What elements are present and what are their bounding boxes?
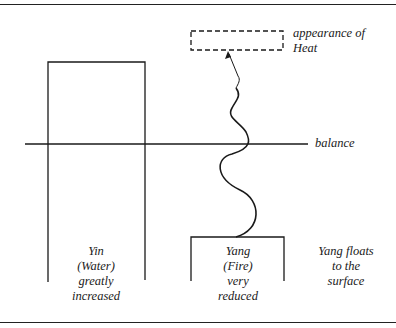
yin-label-line: increased bbox=[60, 289, 132, 304]
yang-label: Yang (Fire) very reduced bbox=[202, 244, 274, 304]
yin-label-line: greatly bbox=[60, 274, 132, 289]
yang-label-line: reduced bbox=[202, 289, 274, 304]
yang-floats-line: surface bbox=[306, 274, 386, 289]
yang-label-line: very bbox=[202, 274, 274, 289]
yang-floats-line: to the bbox=[306, 259, 386, 274]
yang-label-line: Yang bbox=[202, 244, 274, 259]
yin-label-line: (Water) bbox=[60, 259, 132, 274]
yin-label-line: Yin bbox=[60, 244, 132, 259]
balance-label: balance bbox=[315, 136, 355, 151]
yin-label: Yin (Water) greatly increased bbox=[60, 244, 132, 304]
rising-wave-line-thin bbox=[229, 54, 239, 88]
heat-label-line: appearance of bbox=[293, 26, 365, 41]
yang-floats-label: Yang floats to the surface bbox=[306, 244, 386, 289]
yang-floats-line: Yang floats bbox=[306, 244, 386, 259]
yang-label-line: (Fire) bbox=[202, 259, 274, 274]
heat-label: appearance of Heat bbox=[293, 26, 365, 56]
heat-dashed-box bbox=[191, 31, 283, 50]
heat-label-line: Heat bbox=[293, 41, 365, 56]
rising-wave-line bbox=[220, 88, 256, 237]
